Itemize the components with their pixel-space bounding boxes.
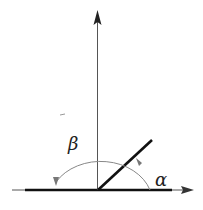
alpha-arrow-icon [136, 158, 142, 166]
alpha-label: α [155, 169, 167, 190]
angle-diagram: β α [0, 0, 203, 210]
beta-arrow-icon [53, 177, 59, 186]
dash-mark [60, 114, 65, 115]
beta-label: β [67, 133, 78, 154]
ray [98, 140, 152, 190]
